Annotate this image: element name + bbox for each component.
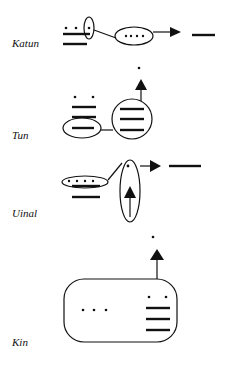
katun-dot xyxy=(75,27,78,30)
kin-dot xyxy=(105,309,108,312)
uinal-group: Uinal xyxy=(12,160,201,222)
uinal-ellipse-dot xyxy=(92,180,94,182)
kin-arrow-up-icon xyxy=(150,249,164,260)
katun-large-ellipse xyxy=(115,27,153,45)
uinal-ellipse-dot xyxy=(68,180,70,182)
katun-ellipse-dot xyxy=(142,35,144,37)
uinal-ellipse-dot xyxy=(84,180,86,182)
kin-dot xyxy=(165,296,168,299)
katun-ellipse-dot xyxy=(136,35,138,37)
katun-arrow-right-icon xyxy=(170,27,181,37)
uinal-ellipse-dot xyxy=(127,165,130,168)
katun-ellipse-dot xyxy=(125,35,127,37)
tun-dot xyxy=(92,96,95,99)
katun-label: Katun xyxy=(11,37,39,49)
katun-group: Katun xyxy=(11,17,215,49)
uinal-arrow-right-icon xyxy=(150,160,161,172)
tun-label: Tun xyxy=(12,129,29,141)
uinal-label: Uinal xyxy=(12,207,37,219)
kin-dot xyxy=(148,296,151,299)
kin-group: Kin xyxy=(11,236,177,348)
katun-dot xyxy=(65,27,68,30)
uinal-inner-arrow-up-icon xyxy=(124,186,136,198)
kin-label: Kin xyxy=(11,336,28,348)
kin-rounded-box xyxy=(64,279,177,342)
kin-result-dot xyxy=(152,236,155,239)
uinal-ellipse-dot xyxy=(76,180,78,182)
kin-dot xyxy=(82,309,85,312)
tun-dot xyxy=(74,96,77,99)
maya-numeral-diagram: Katun Tun xyxy=(0,0,225,366)
uinal-connector xyxy=(108,163,122,180)
tun-group: Tun xyxy=(12,67,152,141)
kin-dot xyxy=(93,309,96,312)
katun-ellipse-dot xyxy=(130,35,132,37)
katun-connector xyxy=(94,30,116,38)
katun-ellipse-dot xyxy=(88,27,91,30)
tun-result-dot xyxy=(138,67,141,70)
tun-arrow-up-icon xyxy=(135,79,147,90)
